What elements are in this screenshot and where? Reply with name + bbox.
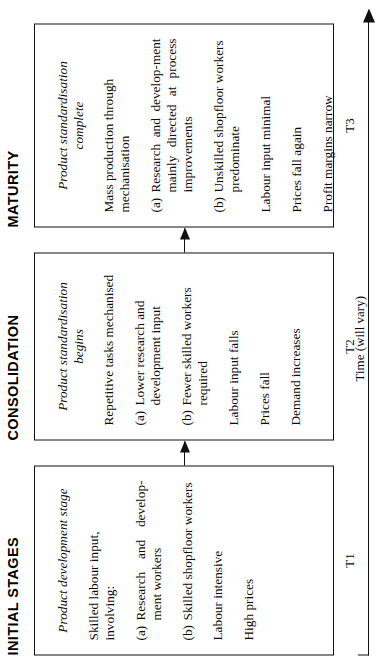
stage-item-initial-stages-b: (b) Skilled shopfloor workers (180, 480, 196, 640)
time-axis (368, 10, 369, 655)
item-marker: (b) (180, 620, 196, 640)
axis-tick-start (358, 654, 369, 655)
item-marker: (b) (211, 192, 243, 212)
stage-box-initial-stages: Product development stage Skilled labour… (34, 465, 334, 655)
stage-item-initial-stages-a: (a) Research and develop-ment workers (133, 480, 165, 640)
stage-item-consolidation-a: (a) Lower research and development input (132, 267, 164, 425)
time-axis-arrow-icon (363, 8, 375, 22)
stage-heading-consolidation: Product standardisation begins (55, 267, 86, 425)
stage-tail-maturity-0: Labour input minimal (258, 38, 274, 212)
item-text: Research and develop-ment mainly directe… (148, 38, 196, 192)
stage-title-initial-stages: INITIAL STAGES (5, 536, 21, 655)
stage-line-consolidation-0: Repetitive tasks mechanised (101, 267, 117, 425)
stage-heading-maturity: Product standardisation complete (55, 38, 86, 212)
item-marker: (a) (132, 405, 164, 425)
arrow-consolidation-to-maturity (184, 228, 185, 252)
item-text: Skilled shopfloor workers (180, 480, 196, 620)
arrow-head-icon (180, 227, 190, 239)
product-life-cycle-diagram: INITIAL STAGES Product development stage… (0, 0, 388, 671)
item-text: Fewer skilled workers required (179, 267, 211, 405)
stage-heading-initial-stages: Product development stage (55, 480, 71, 640)
stage-tail-maturity-2: Profit margins narrow (320, 38, 336, 212)
stage-item-consolidation-b: (b) Fewer skilled workers required (179, 267, 211, 425)
stage-line-maturity-0: Mass production through mechanisation (101, 38, 133, 212)
stage-item-maturity-a: (a) Research and develop-ment mainly dir… (148, 38, 196, 212)
item-marker: (a) (133, 620, 165, 640)
time-mark-t3: T3 (342, 23, 358, 227)
time-axis-label: Time (will vary) (352, 296, 368, 381)
item-text: Research and develop-ment workers (133, 480, 165, 620)
arrow-initial-to-consolidation (184, 441, 185, 465)
item-text: Unskilled shopfloor workers predominate (211, 38, 243, 192)
rotated-figure-wrapper: INITIAL STAGES Product development stage… (0, 0, 388, 671)
arrow-head-icon (180, 440, 190, 452)
stage-tail-consolidation-1: Prices fall (257, 267, 273, 425)
item-text: Lower research and development input (132, 267, 164, 405)
time-mark-t1: T1 (342, 465, 358, 655)
stage-tail-initial-stages-0: Labour intensive (210, 480, 226, 640)
stage-tail-consolidation-2: Demand increases (288, 267, 304, 425)
stage-tail-maturity-1: Prices fall again (289, 38, 305, 212)
stage-box-maturity: Product standardisation complete Mass pr… (34, 23, 334, 227)
stage-box-consolidation: Product standardisation begins Repetitiv… (34, 252, 334, 440)
stage-title-consolidation: CONSOLIDATION (5, 314, 21, 440)
stage-tail-initial-stages-1: High prices (241, 480, 257, 640)
item-marker: (b) (179, 405, 211, 425)
stage-title-maturity: MATURITY (5, 150, 21, 227)
stage-line-initial-stages-0: Skilled labour input, involving: (86, 480, 118, 640)
item-marker: (a) (148, 192, 196, 212)
stage-item-maturity-b: (b) Unskilled shopfloor workers predomin… (211, 38, 243, 212)
stage-tail-consolidation-0: Labour input falls (226, 267, 242, 425)
